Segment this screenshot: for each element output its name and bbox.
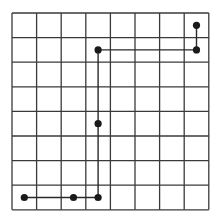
dot-marker <box>95 120 102 127</box>
grid-puzzle-board <box>0 0 221 223</box>
grid-lines <box>12 13 209 210</box>
dot-marker <box>95 46 102 53</box>
dot-marker <box>95 194 102 201</box>
dot-marker <box>70 194 77 201</box>
dot-marker <box>193 46 200 53</box>
dot-marker <box>193 22 200 29</box>
dot-marker <box>21 194 28 201</box>
